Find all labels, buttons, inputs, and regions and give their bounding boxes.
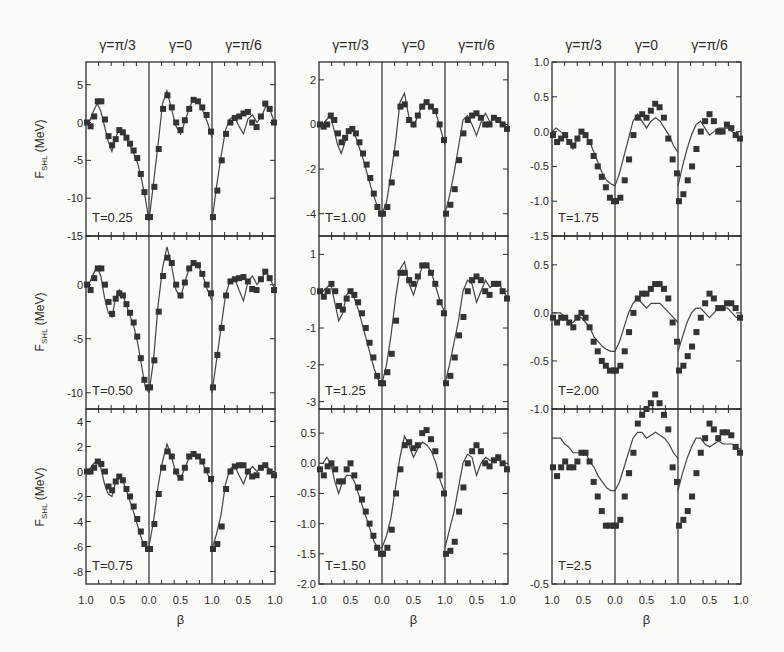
y-tick-label: -1.0: [530, 195, 549, 207]
gamma-label: γ=π/6: [691, 37, 728, 53]
data-marker: [487, 292, 493, 298]
data-marker: [478, 115, 484, 121]
data-marker: [335, 130, 341, 136]
model-curve: [382, 262, 445, 383]
data-marker: [245, 109, 251, 115]
y-tick-label: -1.0: [530, 403, 549, 415]
data-marker: [702, 300, 708, 306]
data-marker: [88, 123, 94, 129]
temperature-label: T=1.00: [325, 210, 366, 225]
data-marker: [186, 265, 192, 271]
data-marker: [626, 470, 632, 476]
data-marker: [214, 541, 220, 547]
data-marker: [469, 448, 475, 454]
data-marker: [613, 523, 619, 529]
model-curve: [615, 114, 678, 186]
data-marker: [219, 157, 225, 163]
data-marker: [91, 465, 97, 471]
data-marker: [138, 529, 144, 535]
model-curve: [212, 465, 275, 549]
data-marker: [223, 292, 229, 298]
data-marker: [680, 191, 686, 197]
y-tick-label: -2: [306, 359, 316, 371]
data-marker: [199, 104, 205, 110]
data-marker: [558, 464, 564, 470]
data-marker: [504, 126, 510, 132]
data-marker: [670, 156, 676, 162]
data-marker: [591, 339, 597, 345]
data-marker: [698, 450, 704, 456]
data-marker: [728, 125, 734, 131]
data-marker: [160, 273, 166, 279]
data-marker: [562, 459, 568, 465]
data-marker: [258, 276, 264, 282]
data-marker: [131, 320, 137, 326]
data-marker: [689, 163, 695, 169]
y-tick-label: -10: [67, 192, 83, 204]
data-marker: [406, 439, 412, 445]
data-marker: [626, 329, 632, 335]
data-marker: [380, 211, 386, 217]
data-marker: [325, 288, 331, 294]
data-marker: [173, 120, 179, 126]
data-marker: [374, 373, 380, 379]
data-marker: [102, 282, 108, 288]
y-tick-label: 0.5: [534, 91, 549, 103]
data-marker: [351, 472, 357, 478]
data-marker: [120, 477, 126, 483]
data-marker: [169, 454, 175, 460]
model-curve: [678, 308, 741, 351]
data-marker: [84, 282, 90, 288]
data-marker: [603, 184, 609, 190]
data-marker: [214, 188, 220, 194]
data-marker: [374, 545, 380, 551]
data-marker: [317, 288, 323, 294]
x-axis-label: β: [177, 612, 184, 627]
data-marker: [570, 464, 576, 470]
data-marker: [210, 384, 216, 390]
data-marker: [169, 260, 175, 266]
data-marker: [147, 546, 153, 552]
data-marker: [147, 214, 153, 220]
data-marker: [428, 436, 434, 442]
data-marker: [504, 296, 510, 302]
data-marker: [402, 270, 408, 276]
data-marker: [452, 354, 458, 360]
data-marker: [204, 112, 210, 118]
data-marker: [355, 299, 361, 305]
data-marker: [737, 136, 743, 142]
data-marker: [437, 472, 443, 478]
data-marker: [465, 288, 471, 294]
data-marker: [728, 432, 734, 438]
data-marker: [141, 377, 147, 383]
data-marker: [254, 287, 260, 293]
data-marker: [674, 170, 680, 176]
data-marker: [652, 391, 658, 397]
data-marker: [441, 310, 447, 316]
x-tick-label: 0.5: [702, 594, 717, 606]
data-marker: [271, 287, 277, 293]
gamma-label: γ=π/6: [458, 37, 495, 53]
data-marker: [258, 113, 264, 119]
data-marker: [204, 282, 210, 288]
panel-T050: 0-5-10T=0.50: [67, 236, 277, 409]
data-marker: [331, 117, 337, 123]
x-tick-label: 1.0: [204, 594, 219, 606]
y-tick-label: -3: [306, 396, 316, 408]
data-marker: [151, 521, 157, 527]
data-marker: [342, 135, 348, 141]
y-tick-label: 0.0: [534, 126, 549, 138]
gamma-label: γ=0: [402, 37, 425, 53]
data-marker: [424, 427, 430, 433]
x-tick-label: 1.0: [670, 594, 685, 606]
data-marker: [109, 142, 115, 148]
data-marker: [199, 459, 205, 465]
model-curve: [615, 298, 678, 351]
x-tick-label: 0.0: [607, 594, 622, 606]
x-tick-label: 1.0: [267, 594, 282, 606]
data-marker: [363, 509, 369, 515]
y-tick-label: -15: [67, 230, 83, 242]
data-marker: [262, 269, 268, 275]
data-marker: [500, 460, 506, 466]
data-marker: [389, 351, 395, 357]
